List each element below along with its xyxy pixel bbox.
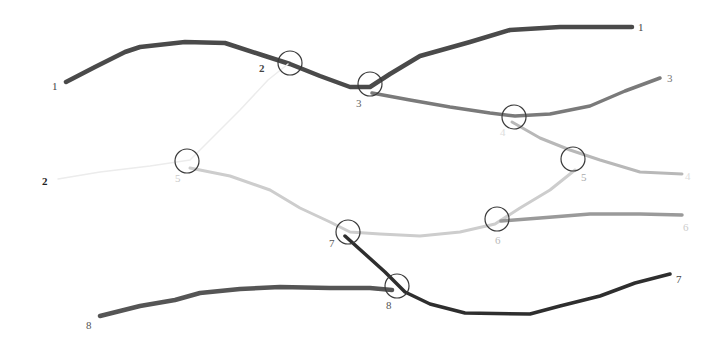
label-2-left: 2 xyxy=(42,175,48,187)
label-4-junction: 4 xyxy=(500,126,506,138)
label-4-right: 4 xyxy=(685,170,691,182)
lines-layer xyxy=(58,27,682,316)
label-1-left: 1 xyxy=(52,80,58,92)
labels-layer: 1122334455667788 xyxy=(42,21,691,331)
line-2 xyxy=(58,64,288,179)
label-6-right: 6 xyxy=(683,221,689,233)
label-8-left: 8 xyxy=(86,319,92,331)
line-6 xyxy=(501,214,682,221)
label-5-right: 5 xyxy=(581,171,587,183)
label-1-right: 1 xyxy=(638,21,644,33)
label-2-top: 2 xyxy=(259,62,265,74)
label-3-junction: 3 xyxy=(356,97,362,109)
label-7-right: 7 xyxy=(676,273,682,285)
label-7-junction: 7 xyxy=(329,237,335,249)
line-8 xyxy=(100,287,392,316)
line-1 xyxy=(66,27,632,87)
label-3-right: 3 xyxy=(667,72,673,84)
label-8-junction: 8 xyxy=(386,299,392,311)
label-6-junction: 6 xyxy=(495,234,501,246)
line-4 xyxy=(512,122,682,174)
line-3 xyxy=(372,78,660,116)
branching-diagram: 1122334455667788 xyxy=(0,0,723,348)
junctions-layer xyxy=(175,51,585,298)
line-5 xyxy=(190,168,575,236)
label-5-left: 5 xyxy=(175,172,181,184)
